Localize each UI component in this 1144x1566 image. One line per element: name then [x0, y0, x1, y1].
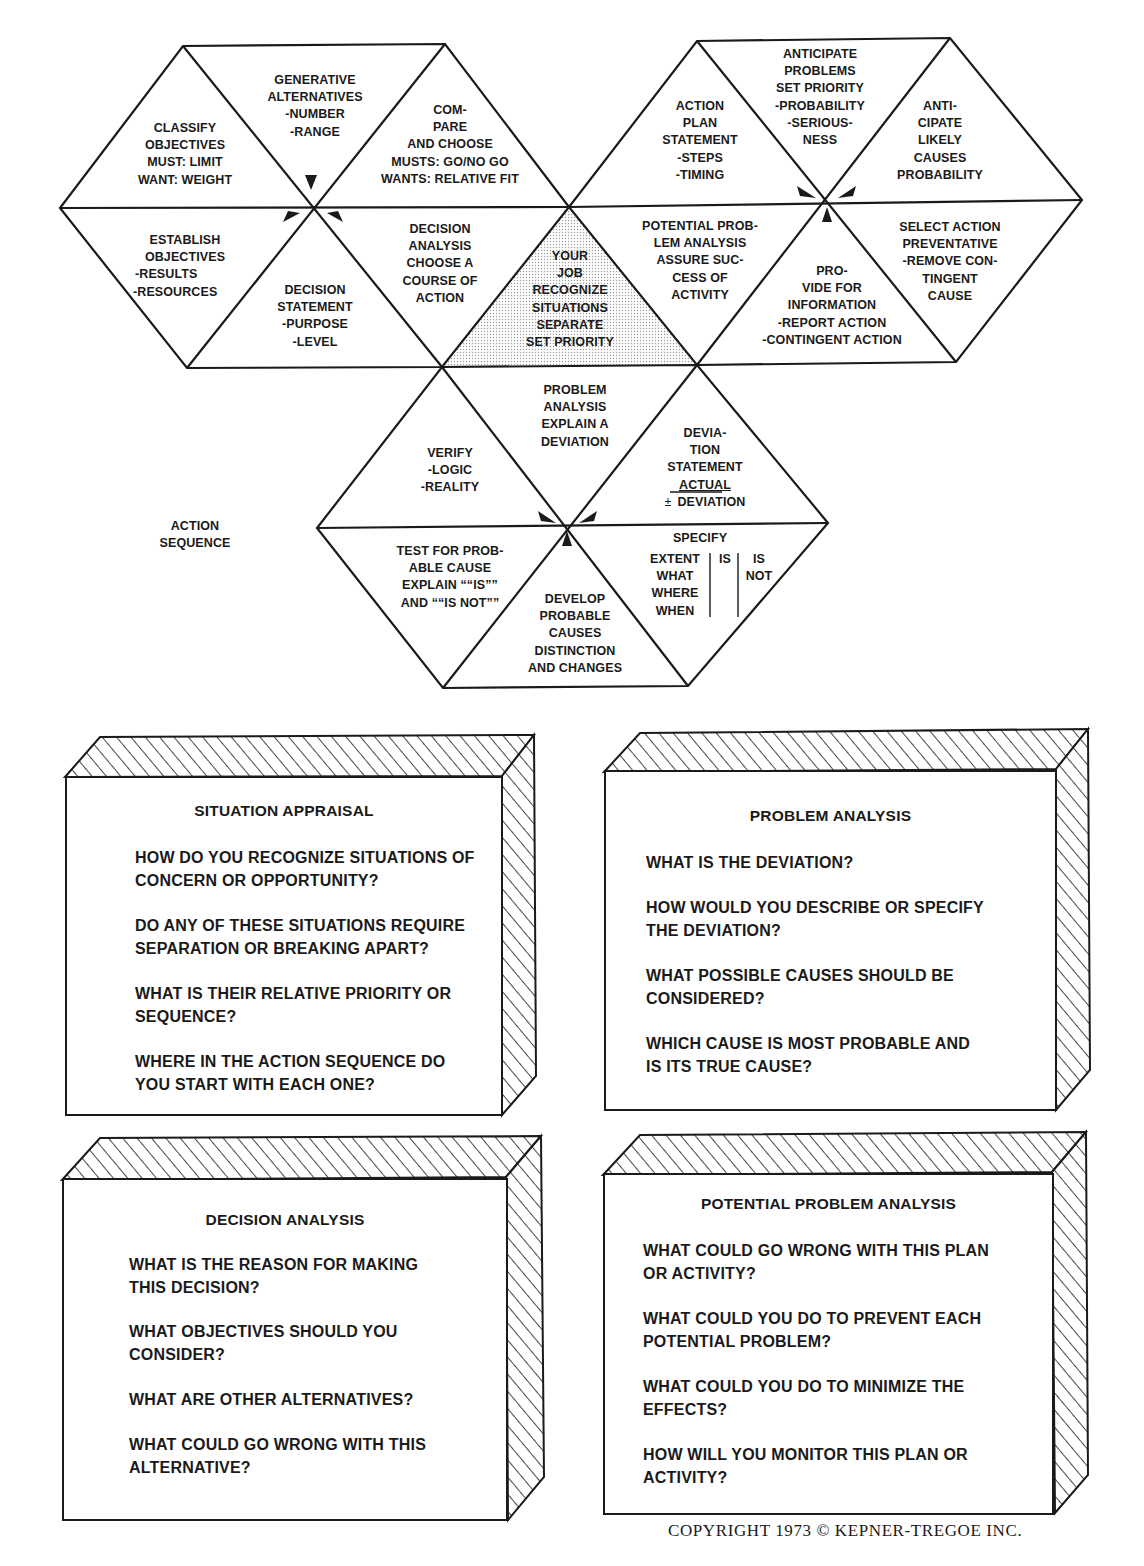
copyright-notice: COPYRIGHT 1973 © KEPNER-TREGOE INC.	[668, 1521, 1022, 1541]
box-question: DO ANY OF THESE SITUATIONS REQUIRE SEPAR…	[135, 914, 465, 960]
box-top-hatch	[604, 729, 1088, 772]
box-side-hatch	[506, 1136, 544, 1520]
arrow-down-right-icon	[797, 186, 816, 198]
develop-causes-label: DEVELOP PROBABLE CAUSES DISTINCTION AND …	[515, 591, 635, 677]
box-side-hatch	[1052, 1132, 1088, 1513]
arrow-up-icon	[822, 207, 832, 222]
classify-objectives-label: CLASSIFY OBJECTIVES MUST: LIMIT WANT: WE…	[120, 120, 250, 189]
box-title: DECISION ANALYSIS	[64, 1211, 506, 1229]
box-title: POTENTIAL PROBLEM ANALYSIS	[605, 1195, 1052, 1213]
problem-analysis-title: PROBLEM ANALYSIS EXPLAIN A DEVIATION	[520, 382, 630, 451]
box-question: HOW WOULD YOU DESCRIBE OR SPECIFY THE DE…	[646, 896, 984, 942]
specify-title: SPECIFY	[660, 530, 740, 547]
specify-is-column: IS	[713, 551, 737, 568]
problem-analysis-box: PROBLEM ANALYSIS WHAT IS THE DEVIATION? …	[604, 770, 1057, 1111]
box-question: WHAT POSSIBLE CAUSES SHOULD BE CONSIDERE…	[646, 964, 954, 1010]
anticipate-problems-label: ANTICIPATE PROBLEMS SET PRIORITY -PROBAB…	[760, 46, 880, 149]
arrow-up-right-icon	[283, 211, 300, 222]
box-question: WHICH CAUSE IS MOST PROBABLE AND IS ITS …	[646, 1032, 970, 1078]
specify-dimensions: EXTENT WHAT WHERE WHEN	[645, 551, 705, 620]
arrow-down-left-icon	[838, 186, 856, 198]
decision-statement-label: DECISION STATEMENT -PURPOSE -LEVEL	[260, 282, 370, 351]
box-question: WHAT COULD GO WRONG WITH THIS PLAN OR AC…	[643, 1239, 989, 1285]
box-question: HOW DO YOU RECOGNIZE SITUATIONS OF CONCE…	[135, 846, 475, 892]
verify-label: VERIFY -LOGIC -REALITY	[405, 445, 495, 497]
box-title: SITUATION APPRAISAL	[67, 802, 501, 820]
generate-alternatives-label: GENERATIVE ALTERNATIVES -NUMBER -RANGE	[250, 72, 380, 141]
arrow-up-left-icon	[327, 211, 343, 222]
decision-analysis-box: DECISION ANALYSIS WHAT IS THE REASON FOR…	[62, 1178, 508, 1521]
box-question: WHERE IN THE ACTION SEQUENCE DO YOU STAR…	[135, 1050, 446, 1096]
box-side-hatch	[1056, 729, 1090, 1110]
box-question: HOW WILL YOU MONITOR THIS PLAN OR ACTIVI…	[643, 1443, 968, 1489]
your-job-label: YOUR JOB RECOGNIZE SITUATIONS SEPARATE S…	[510, 248, 630, 351]
potential-problem-analysis-box: POTENTIAL PROBLEM ANALYSIS WHAT COULD GO…	[603, 1173, 1054, 1515]
box-question: WHAT COULD GO WRONG WITH THIS ALTERNATIV…	[129, 1433, 426, 1479]
deviation-statement-label: DEVIA- TION STATEMENT ACTUAL ±DEVIATION	[650, 425, 760, 511]
box-question: WHAT COULD YOU DO TO MINIMIZE THE EFFECT…	[643, 1375, 964, 1421]
compare-choose-label: COM- PARE AND CHOOSE MUSTS: GO/NO GO WAN…	[370, 102, 530, 188]
arrow-down-icon	[305, 175, 317, 190]
test-probable-cause-label: TEST FOR PROB- ABLE CAUSE EXPLAIN ““IS””…	[385, 543, 515, 612]
box-question: WHAT IS THEIR RELATIVE PRIORITY OR SEQUE…	[135, 982, 451, 1028]
action-sequence-label: ACTION SEQUENCE	[140, 518, 250, 552]
box-question: WHAT IS THE DEVIATION?	[646, 851, 853, 874]
box-top-hatch	[603, 1132, 1086, 1175]
box-question: WHAT IS THE REASON FOR MAKING THIS DECIS…	[129, 1253, 418, 1299]
box-question: WHAT COULD YOU DO TO PREVENT EACH POTENT…	[643, 1307, 981, 1353]
box-question: WHAT OBJECTIVES SHOULD YOU CONSIDER?	[129, 1320, 398, 1366]
box-top-hatch	[65, 735, 534, 777]
box-top-hatch	[62, 1136, 541, 1180]
box-question: WHAT ARE OTHER ALTERNATIVES?	[129, 1388, 413, 1411]
specify-is-not-column: IS NOT	[741, 551, 777, 585]
action-plan-label: ACTION PLAN STATEMENT -STEPS -TIMING	[650, 98, 750, 184]
box-title: PROBLEM ANALYSIS	[606, 807, 1055, 825]
situation-appraisal-box: SITUATION APPRAISAL HOW DO YOU RECOGNIZE…	[65, 776, 503, 1116]
establish-objectives-label: ESTABLISH OBJECTIVES -RESULTS -RESOURCES	[125, 232, 245, 301]
box-side-hatch	[502, 735, 536, 1115]
decision-analysis-title: DECISION ANALYSIS CHOOSE A COURSE OF ACT…	[385, 221, 495, 307]
select-action-label: SELECT ACTION PREVENTATIVE -REMOVE CON- …	[885, 219, 1015, 305]
anticipate-causes-label: ANTI- CIPATE LIKELY CAUSES PROBABILITY	[890, 98, 990, 184]
